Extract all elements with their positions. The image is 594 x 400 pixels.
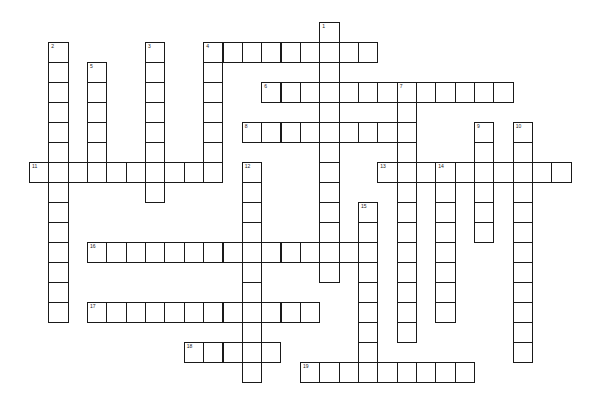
crossword-cell[interactable] [87,162,107,183]
crossword-cell[interactable] [48,102,68,123]
crossword-cell[interactable] [319,42,339,63]
crossword-cell[interactable] [242,202,262,223]
crossword-cell[interactable] [416,82,436,103]
crossword-cell[interactable] [87,82,107,103]
crossword-cell[interactable] [513,282,533,303]
crossword-cell[interactable] [397,122,417,143]
crossword-cell[interactable] [203,242,223,263]
crossword-cell[interactable] [145,142,165,163]
crossword-cell[interactable]: 10 [513,122,533,143]
crossword-cell[interactable] [416,162,436,183]
crossword-cell[interactable] [397,242,417,263]
crossword-cell[interactable] [455,362,475,383]
crossword-cell[interactable] [48,82,68,103]
crossword-cell[interactable] [339,242,359,263]
crossword-cell[interactable] [377,362,397,383]
crossword-cell[interactable] [551,162,571,183]
crossword-cell[interactable] [435,222,455,243]
crossword-cell[interactable] [145,302,165,323]
crossword-cell[interactable] [435,282,455,303]
crossword-cell[interactable]: 14 [435,162,455,183]
crossword-cell[interactable]: 12 [242,162,262,183]
crossword-cell[interactable] [358,262,378,283]
crossword-cell[interactable] [164,242,184,263]
crossword-cell[interactable] [145,122,165,143]
crossword-cell[interactable] [319,82,339,103]
crossword-cell[interactable]: 8 [242,122,262,143]
crossword-cell[interactable] [474,82,494,103]
crossword-cell[interactable] [319,182,339,203]
crossword-cell[interactable] [223,42,243,63]
crossword-cell[interactable] [203,122,223,143]
crossword-cell[interactable] [397,102,417,123]
crossword-cell[interactable] [435,302,455,323]
crossword-cell[interactable] [397,262,417,283]
crossword-cell[interactable] [416,362,436,383]
crossword-cell[interactable] [242,242,262,263]
crossword-cell[interactable] [319,262,339,283]
crossword-cell[interactable] [242,282,262,303]
crossword-cell[interactable]: 1 [319,22,339,43]
crossword-cell[interactable] [203,342,223,363]
crossword-cell[interactable] [397,282,417,303]
crossword-cell[interactable] [455,82,475,103]
crossword-cell[interactable] [435,182,455,203]
crossword-cell[interactable] [48,262,68,283]
crossword-cell[interactable] [300,82,320,103]
crossword-cell[interactable] [145,182,165,203]
crossword-cell[interactable] [358,242,378,263]
crossword-cell[interactable] [184,302,204,323]
crossword-cell[interactable] [106,162,126,183]
crossword-cell[interactable] [48,302,68,323]
crossword-cell[interactable] [339,362,359,383]
crossword-cell[interactable] [145,82,165,103]
crossword-cell[interactable] [435,202,455,223]
crossword-cell[interactable] [48,62,68,83]
crossword-cell[interactable] [300,302,320,323]
crossword-cell[interactable] [397,322,417,343]
crossword-cell[interactable] [300,122,320,143]
crossword-cell[interactable] [242,302,262,323]
crossword-cell[interactable] [319,222,339,243]
crossword-cell[interactable] [339,82,359,103]
crossword-cell[interactable] [319,122,339,143]
crossword-cell[interactable] [223,302,243,323]
crossword-cell[interactable] [319,142,339,163]
crossword-cell[interactable] [164,302,184,323]
crossword-cell[interactable]: 6 [261,82,281,103]
crossword-cell[interactable] [319,202,339,223]
crossword-cell[interactable] [48,282,68,303]
crossword-cell[interactable] [319,242,339,263]
crossword-cell[interactable] [68,162,88,183]
crossword-cell[interactable]: 3 [145,42,165,63]
crossword-cell[interactable]: 18 [184,342,204,363]
crossword-cell[interactable] [145,102,165,123]
crossword-cell[interactable] [513,322,533,343]
crossword-cell[interactable] [184,242,204,263]
crossword-cell[interactable]: 11 [29,162,49,183]
crossword-cell[interactable] [242,342,262,363]
crossword-cell[interactable]: 7 [397,82,417,103]
crossword-cell[interactable]: 17 [87,302,107,323]
crossword-cell[interactable] [126,162,146,183]
crossword-cell[interactable] [319,102,339,123]
crossword-cell[interactable] [87,102,107,123]
crossword-cell[interactable] [261,122,281,143]
crossword-cell[interactable]: 19 [300,362,320,383]
crossword-cell[interactable] [203,142,223,163]
crossword-cell[interactable] [223,242,243,263]
crossword-cell[interactable] [397,202,417,223]
crossword-cell[interactable] [87,122,107,143]
crossword-cell[interactable] [358,322,378,343]
crossword-cell[interactable] [87,142,107,163]
crossword-cell[interactable] [164,162,184,183]
crossword-cell[interactable] [358,282,378,303]
crossword-cell[interactable] [397,302,417,323]
crossword-cell[interactable] [300,242,320,263]
crossword-cell[interactable] [377,82,397,103]
crossword-cell[interactable] [126,242,146,263]
crossword-cell[interactable] [184,162,204,183]
crossword-cell[interactable] [435,242,455,263]
crossword-cell[interactable] [358,302,378,323]
crossword-cell[interactable] [513,182,533,203]
